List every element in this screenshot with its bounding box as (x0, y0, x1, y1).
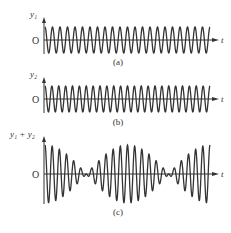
caption-b: (b) (113, 117, 124, 127)
t-label-a: t (221, 35, 224, 45)
y-axis-arrow-icon (42, 77, 46, 83)
caption-c: (c) (113, 207, 123, 217)
t-label-c: t (221, 169, 224, 179)
y2-label: y₂ (29, 69, 37, 79)
wave-superposition-figure: y₁ O t (a) y₂ O t (b) y₁ + y₂ O t (c) (0, 0, 231, 233)
origin-label-c: O (32, 169, 39, 180)
t-axis-arrow-icon (212, 97, 219, 101)
origin-label-b: O (32, 94, 39, 105)
sum-label: y₁ + y₂ (9, 129, 35, 139)
panel-b: y₂ O t (b) (29, 69, 224, 127)
t-axis-arrow-icon (212, 38, 219, 42)
y-axis-arrow-icon (42, 17, 46, 23)
origin-label-a: O (32, 35, 39, 46)
panel-a: y₁ O t (a) (29, 9, 224, 67)
t-label-b: t (221, 94, 224, 104)
t-axis-arrow-icon (212, 172, 219, 176)
panel-c: y₁ + y₂ O t (c) (9, 129, 224, 217)
y1-label: y₁ (29, 9, 37, 19)
y-axis-arrow-icon (42, 136, 46, 142)
caption-a: (a) (113, 57, 123, 67)
